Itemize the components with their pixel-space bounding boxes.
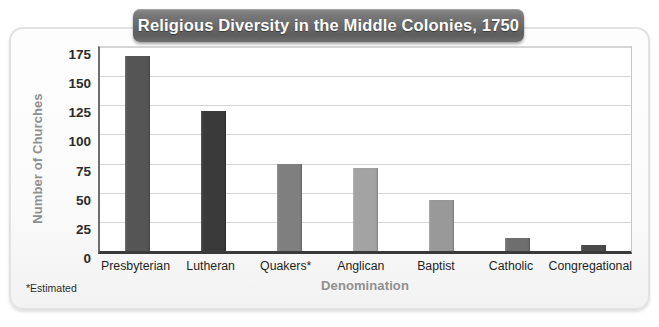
y-tick-label: 0 [83,251,91,266]
category-label-slot: Lutheran [173,256,248,276]
y-tick-label: 50 [76,192,91,207]
bar-slot [555,47,631,251]
category-label-slot: Anglican [323,256,398,276]
category-label: Anglican [337,259,384,273]
category-label: Lutheran [186,259,235,273]
category-label: Quakers* [260,259,311,273]
bar [277,164,302,251]
bar-slot [100,47,176,251]
category-label-slot: Catholic [473,256,548,276]
bar [125,56,150,251]
bar [581,245,606,251]
y-tick-label: 150 [68,76,91,91]
bar [201,111,226,251]
bar-slot [479,47,555,251]
bar [429,200,454,251]
bars-layer [100,47,631,251]
category-label-slot: Quakers* [248,256,323,276]
bar-slot [328,47,404,251]
y-axis-tick-labels: 0255075100125150175 [48,54,96,260]
bar-slot [403,47,479,251]
bar-slot [176,47,252,251]
category-label: Baptist [417,259,455,273]
bar [505,238,530,251]
category-label-slot: Congregational [549,256,632,276]
bar-slot [252,47,328,251]
y-axis-title-text: Number of Churches [30,93,45,223]
x-axis-category-labels: PresbyterianLutheranQuakers*AnglicanBapt… [98,256,632,276]
x-axis-title: Denomination [98,278,632,293]
bar [353,168,378,251]
y-tick-label: 75 [76,163,91,178]
y-tick-label: 175 [68,47,91,62]
y-tick-label: 100 [68,134,91,149]
chart-title-banner: Religious Diversity in the Middle Coloni… [133,9,524,42]
plot-area [98,46,632,254]
footnote: *Estimated [26,282,77,294]
y-tick-label: 25 [76,221,91,236]
category-label: Presbyterian [101,259,170,273]
y-axis-title: Number of Churches [26,60,48,256]
category-label: Catholic [489,259,533,273]
category-label-slot: Presbyterian [98,256,173,276]
chart-title: Religious Diversity in the Middle Coloni… [138,16,519,35]
category-label: Congregational [549,259,632,273]
y-tick-label: 125 [68,105,91,120]
category-label-slot: Baptist [398,256,473,276]
